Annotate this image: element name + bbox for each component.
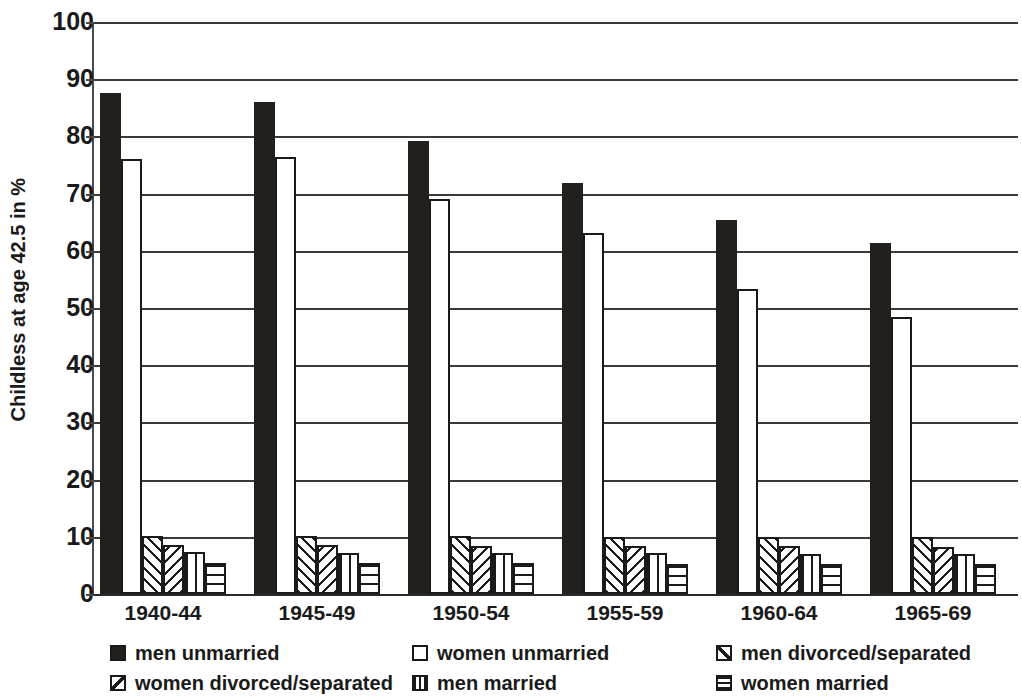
bar — [317, 545, 338, 594]
bar-group — [870, 22, 996, 594]
y-tick-mark — [86, 537, 94, 539]
y-tick-label: 90 — [14, 66, 94, 91]
y-tick-mark — [86, 365, 94, 367]
bar — [737, 289, 758, 594]
bar — [513, 563, 534, 594]
bar — [646, 553, 667, 594]
plot-area — [94, 22, 1018, 594]
bar — [954, 554, 975, 594]
bar — [296, 536, 317, 594]
y-tick-label: 60 — [14, 238, 94, 263]
bar — [254, 102, 275, 594]
bar — [870, 243, 891, 594]
y-tick-mark — [86, 308, 94, 310]
y-tick-label: 70 — [14, 181, 94, 206]
bar — [891, 317, 912, 594]
bar — [912, 537, 933, 594]
y-tick-label: 10 — [14, 524, 94, 549]
bar — [142, 536, 163, 594]
legend-swatch-icon — [716, 675, 732, 691]
legend-item[interactable]: men unmarried — [110, 640, 279, 666]
legend-label: men unmarried — [135, 643, 279, 663]
bar — [716, 220, 737, 594]
bar — [121, 159, 142, 594]
x-tick-label: 1940-44 — [103, 602, 223, 623]
chart-root: Childless at age 42.5 in % 0102030405060… — [0, 0, 1022, 696]
bar — [205, 563, 226, 594]
bar-group — [408, 22, 534, 594]
bar — [338, 553, 359, 594]
x-tick-label: 1945-49 — [257, 602, 377, 623]
bar-group — [100, 22, 226, 594]
legend-item[interactable]: women married — [716, 670, 889, 696]
bar — [429, 199, 450, 594]
bar — [184, 552, 205, 594]
y-tick-label: 50 — [14, 295, 94, 320]
y-tick-mark — [86, 251, 94, 253]
y-tick-mark — [86, 594, 94, 596]
bar — [779, 546, 800, 594]
y-tick-label: 20 — [14, 467, 94, 492]
bar — [758, 537, 779, 594]
bar — [100, 93, 121, 594]
bar — [163, 545, 184, 594]
y-tick-label: 30 — [14, 409, 94, 434]
y-tick-mark — [86, 136, 94, 138]
bar-group — [254, 22, 380, 594]
y-tick-mark — [86, 79, 94, 81]
bar — [562, 183, 583, 594]
bar — [604, 537, 625, 594]
bar — [667, 564, 688, 594]
bar — [625, 546, 646, 594]
bar — [471, 546, 492, 594]
bar — [450, 536, 471, 594]
bar — [933, 547, 954, 594]
legend-item[interactable]: men divorced/separated — [716, 640, 971, 666]
legend-swatch-icon — [412, 675, 428, 691]
legend-item[interactable]: women unmarried — [412, 640, 609, 666]
bar — [975, 564, 996, 594]
legend-swatch-icon — [716, 645, 732, 661]
legend-swatch-icon — [110, 645, 126, 661]
legend-swatch-icon — [110, 675, 126, 691]
y-tick-label: 100 — [14, 9, 94, 34]
x-tick-label: 1965-69 — [873, 602, 993, 623]
bar — [408, 141, 429, 594]
y-tick-mark — [86, 480, 94, 482]
legend-item[interactable]: women divorced/separated — [110, 670, 393, 696]
legend-label: women married — [741, 673, 889, 693]
bar — [492, 553, 513, 594]
bar-group — [716, 22, 842, 594]
bar — [359, 563, 380, 594]
legend-label: men married — [437, 673, 557, 693]
y-tick-label: 40 — [14, 352, 94, 377]
bar — [583, 233, 604, 594]
legend-item[interactable]: men married — [412, 670, 557, 696]
y-tick-label: 80 — [14, 123, 94, 148]
legend-swatch-icon — [412, 645, 428, 661]
x-tick-label: 1955-59 — [565, 602, 685, 623]
x-axis-line — [94, 594, 1018, 596]
bar — [800, 554, 821, 594]
y-tick-mark — [86, 194, 94, 196]
chart-legend: men unmarriedwomen unmarriedmen divorced… — [0, 638, 1022, 696]
bar — [275, 157, 296, 594]
bar-group — [562, 22, 688, 594]
y-tick-mark — [86, 22, 94, 24]
bar — [821, 564, 842, 594]
legend-label: men divorced/separated — [741, 643, 971, 663]
x-tick-label: 1950-54 — [411, 602, 531, 623]
x-tick-label: 1960-64 — [719, 602, 839, 623]
legend-label: women divorced/separated — [135, 673, 393, 693]
legend-label: women unmarried — [437, 643, 609, 663]
y-tick-mark — [86, 422, 94, 424]
y-tick-label: 0 — [14, 581, 94, 606]
